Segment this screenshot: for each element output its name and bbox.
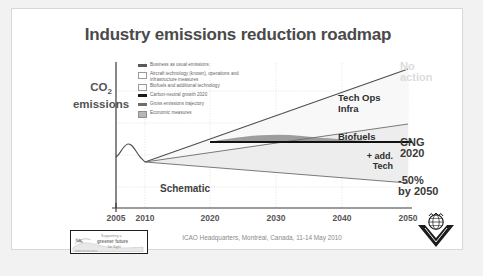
legend-swatch-box-icon <box>138 72 147 79</box>
footer-caption: ICAO Headquarters, Montréal, Canada, 11-… <box>152 234 372 241</box>
annotation-tech-ops-infra: Tech Ops Infra <box>338 93 381 114</box>
legend-swatch-line-icon <box>138 64 147 67</box>
legend-label: Business as usual emissions <box>150 62 209 68</box>
logo-line-3: for flight <box>108 245 121 249</box>
legend-swatch-box-icon <box>138 111 147 118</box>
x-tick-2020: 2020 <box>201 213 220 223</box>
x-tick-2005: 2005 <box>107 213 126 223</box>
logo-line-1: Supporting a <box>101 234 121 238</box>
x-tick-2010: 2010 <box>136 213 155 223</box>
annotation-biofuels: Biofuels <box>338 131 375 142</box>
legend-item-aircraft-technology: Aircraft technology (known), operations … <box>138 71 258 82</box>
enviro-aero-logo: Supporting a greener future for flight w… <box>70 230 148 254</box>
x-tick-2030: 2030 <box>267 213 286 223</box>
legend-item-business-as-usual: Business as usual emissions <box>138 62 258 70</box>
legend-swatch-line-icon <box>138 103 147 106</box>
legend-label: Biofuels and additional technology <box>150 83 220 89</box>
legend-label: Gross emissions trajectory <box>150 101 204 107</box>
legend-swatch-box-icon <box>138 84 147 91</box>
x-tick-2040: 2040 <box>333 213 352 223</box>
legend-label: Economic measures <box>150 110 192 116</box>
legend-item-biofuels: Biofuels and additional technology <box>138 83 258 91</box>
slide-panel: Industry emissions reduction roadmap CO2… <box>11 8 463 250</box>
annotation-schematic: Schematic <box>160 183 210 194</box>
y-axis-label-prefix: CO <box>90 81 107 93</box>
legend-label: Carbon-neutral growth 2020 <box>150 92 207 98</box>
legend-item-carbon-neutral-growth: Carbon-neutral growth 2020 <box>138 92 258 100</box>
chart-legend: Business as usual emissions Aircraft tec… <box>138 62 258 119</box>
page-title: Industry emissions reduction roadmap <box>12 25 464 45</box>
series-historical-emissions <box>116 144 145 162</box>
logo-line-4: www.enviro.aero <box>75 249 97 253</box>
legend-item-gross-emissions: Gross emissions trajectory <box>138 101 258 109</box>
x-tick-2050: 2050 <box>399 213 418 223</box>
icao-emblem-icon <box>416 211 456 249</box>
annotation-no-action: No action <box>400 61 432 83</box>
legend-swatch-line-icon <box>138 94 147 97</box>
x-axis-tick-labels: 2005 2010 2020 2030 2040 2050 <box>112 213 412 227</box>
annotation-add-tech: + add. Tech <box>335 151 393 171</box>
annotation-cng-2020: CNG 2020 <box>400 137 424 159</box>
legend-label: Aircraft technology (known), operations … <box>150 71 258 82</box>
annotation-reduction-2050: -50% by 2050 <box>398 175 438 197</box>
legend-item-economic-measures: Economic measures <box>138 110 258 118</box>
logo-line-2: greener future <box>97 239 128 244</box>
